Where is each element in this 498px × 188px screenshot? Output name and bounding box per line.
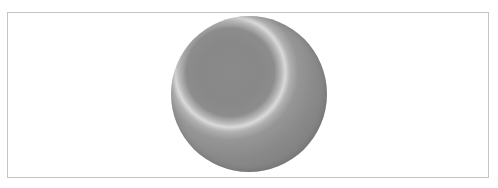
gradient-sphere	[171, 16, 327, 172]
